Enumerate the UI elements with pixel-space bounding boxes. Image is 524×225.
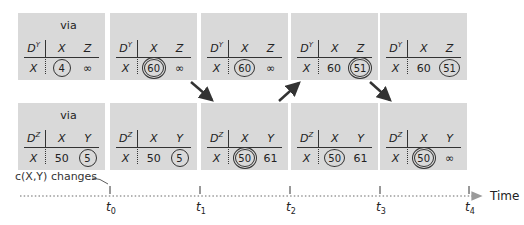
tick-label-t1: t1 <box>196 200 206 216</box>
tick-label-t4: t4 <box>465 200 475 216</box>
arrow-bottom-t2-to-top-t3 <box>279 83 299 101</box>
time-axis-label: Time <box>490 189 519 203</box>
diagram-overlay <box>0 0 524 225</box>
arrow-top-t1-to-bottom-t2 <box>191 82 212 100</box>
tick-label-t3: t3 <box>376 200 386 216</box>
tick-label-t0: t0 <box>106 200 116 216</box>
arrow-top-t3-to-bottom-t4 <box>370 82 390 100</box>
event-label: c(X,Y) changes <box>15 170 97 183</box>
tick-label-t2: t2 <box>286 200 296 216</box>
